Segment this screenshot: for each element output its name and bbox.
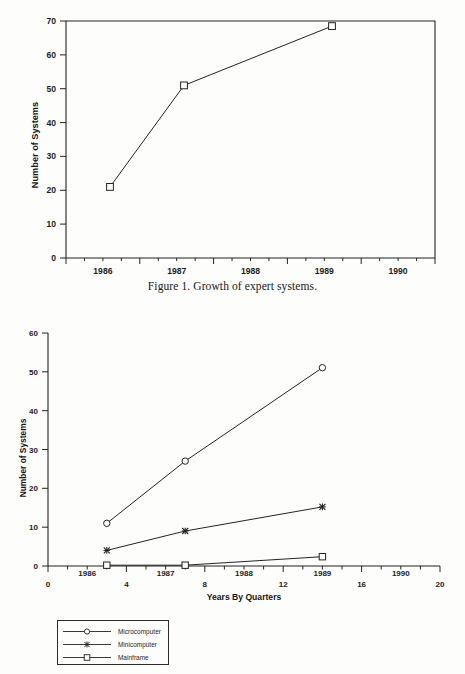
figure-1-caption: Figure 1. Growth of expert systems. <box>0 280 465 292</box>
figure-1-y-tick-20: 20 <box>46 185 56 195</box>
figure-1-marker-2 <box>181 82 188 89</box>
figure-1-chart: Number of Systems 0 10 20 30 40 50 <box>0 0 465 275</box>
figure-1-x-tick-1986: 1986 <box>93 266 112 275</box>
figure-2-x-quarter-4: 4 <box>124 580 129 589</box>
figure-1-marker-1 <box>107 184 114 191</box>
figure-1-x-tick-1989: 1989 <box>315 266 334 275</box>
figure-1-marker-3 <box>329 23 336 30</box>
figure-2-y-tick-30: 30 <box>29 446 38 455</box>
figure-1-y-tick-10: 10 <box>46 219 56 229</box>
figure-2-x-quarter-0: 0 <box>46 580 51 589</box>
figure-2-x-year-1986: 1986 <box>78 569 96 578</box>
figure-2-x-year-1989: 1989 <box>314 569 332 578</box>
legend-marker-square-icon <box>61 652 113 663</box>
figure-1-x-tick-1990: 1990 <box>389 266 408 275</box>
figure-1-x-ticks <box>66 258 435 264</box>
figure-2-legend: Microcomputer Minicomputer <box>57 620 169 665</box>
figure-2-y-tick-50: 50 <box>29 368 38 377</box>
figure-2-x-year-labels: 1986 1987 1988 1989 1990 <box>78 569 410 578</box>
figure-2-x-quarter-12: 12 <box>279 580 288 589</box>
figure-2-series-microcomputer-markers <box>104 365 326 527</box>
figure-1-y-ticks <box>60 21 66 258</box>
figure-2-x-quarter-8: 8 <box>203 580 208 589</box>
figure-1-y-axis-title: Number of Systems <box>30 102 40 188</box>
figure-1-y-tick-labels: 0 10 20 30 40 50 60 70 <box>46 16 56 263</box>
figure-2-x-year-1988: 1988 <box>235 569 253 578</box>
figure-1-plot-frame <box>66 21 435 258</box>
legend-item-mainframe: Mainframe <box>58 651 168 663</box>
figure-1-y-tick-50: 50 <box>46 84 56 94</box>
figure-2-y-tick-labels: 0 10 20 30 40 50 60 <box>29 329 38 571</box>
figure-1-y-tick-60: 60 <box>46 50 56 60</box>
figure-2-y-tick-60: 60 <box>29 329 38 338</box>
figure-2-y-ticks <box>42 333 48 566</box>
figure-2-x-axis-title: Years By Quarters <box>207 592 282 602</box>
figure-2-y-axis-title: Number of Systems <box>18 418 28 497</box>
figure-2-x-quarter-16: 16 <box>357 580 366 589</box>
legend-label-microcomputer: Microcomputer <box>113 628 161 635</box>
figure-2-y-tick-20: 20 <box>29 484 38 493</box>
figure-2-series-minicomputer-line <box>107 507 323 551</box>
legend-label-mainframe: Mainframe <box>113 654 149 661</box>
figure-1-y-tick-30: 30 <box>46 151 56 161</box>
figure-2-x-year-1990: 1990 <box>392 569 410 578</box>
figure-1-y-tick-0: 0 <box>51 253 56 263</box>
figure-1-x-tick-labels: 1986 1987 1988 1989 1990 <box>93 266 408 275</box>
legend-marker-cross-icon <box>61 639 113 650</box>
scanned-page: Number of Systems 0 10 20 30 40 50 <box>0 0 465 674</box>
figure-2-series-mainframe-line <box>107 557 323 566</box>
figure-2-x-quarter-labels: 0 4 8 12 16 20 <box>46 580 445 589</box>
legend-marker-circle-icon <box>61 626 113 637</box>
figure-2-y-tick-0: 0 <box>34 562 39 571</box>
legend-label-minicomputer: Minicomputer <box>113 641 157 648</box>
figure-2-x-year-1987: 1987 <box>157 569 175 578</box>
figure-2-series-minicomputer-markers <box>104 504 326 554</box>
legend-item-minicomputer: Minicomputer <box>58 638 168 650</box>
figure-1-data-markers <box>107 23 336 191</box>
figure-1-series-line <box>110 26 332 187</box>
legend-item-microcomputer: Microcomputer <box>58 625 168 637</box>
figure-1-x-tick-1987: 1987 <box>167 266 186 275</box>
figure-2-chart: Number of Systems 0 10 20 30 40 50 <box>0 318 465 608</box>
figure-2-y-tick-10: 10 <box>29 523 38 532</box>
figure-2-x-quarter-20: 20 <box>436 580 445 589</box>
figure-1-y-tick-40: 40 <box>46 118 56 128</box>
figure-1: Number of Systems 0 10 20 30 40 50 <box>0 0 465 305</box>
figure-2-y-tick-40: 40 <box>29 407 38 416</box>
figure-2-series-microcomputer-line <box>107 368 323 524</box>
figure-1-y-tick-70: 70 <box>46 16 56 26</box>
figure-1-x-tick-1988: 1988 <box>241 266 260 275</box>
